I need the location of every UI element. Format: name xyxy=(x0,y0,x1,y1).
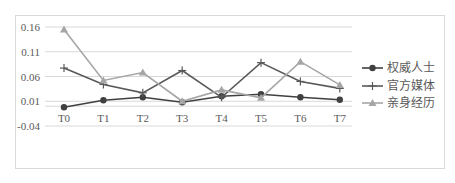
legend-label: 官方媒体 xyxy=(387,78,435,93)
legend-item: 官方媒体 xyxy=(362,78,435,93)
line-chart: 0.160.110.060.01-0.04 T0T1T2T3T4T5T6T7 权… xyxy=(0,0,455,183)
legend-label: 亲身经历 xyxy=(387,95,435,110)
y-tick-label: 0.01 xyxy=(21,95,40,107)
y-tick-label: 0.06 xyxy=(21,71,41,83)
x-tick-label: T0 xyxy=(58,112,71,124)
triangle-marker-icon xyxy=(218,86,226,93)
x-tick-label: T1 xyxy=(97,112,109,124)
x-tick-label: T6 xyxy=(294,112,307,124)
x-tick-label: T3 xyxy=(176,112,189,124)
circle-marker-icon xyxy=(61,104,67,110)
circle-marker-icon xyxy=(369,65,375,71)
y-axis-ticks: 0.160.110.060.01-0.04 xyxy=(17,21,40,132)
series-lines xyxy=(60,25,344,110)
legend-item: 权威人士 xyxy=(362,61,435,75)
x-axis-ticks: T0T1T2T3T4T5T6T7 xyxy=(58,112,347,124)
x-tick-label: T7 xyxy=(334,112,347,124)
triangle-marker-icon xyxy=(296,58,304,65)
legend-label: 权威人士 xyxy=(387,61,435,75)
y-tick-label: 0.16 xyxy=(21,21,41,33)
x-tick-label: T4 xyxy=(215,112,228,124)
y-tick-label: -0.04 xyxy=(17,120,40,132)
circle-marker-icon xyxy=(100,97,106,103)
triangle-marker-icon xyxy=(139,69,147,76)
x-tick-label: T2 xyxy=(137,112,149,124)
y-tick-label: 0.11 xyxy=(21,46,40,58)
circle-marker-icon xyxy=(297,94,303,100)
x-tick-label: T5 xyxy=(255,112,268,124)
series-line xyxy=(64,29,340,101)
legend: 权威人士官方媒体亲身经历 xyxy=(362,61,435,110)
circle-marker-icon xyxy=(337,97,343,103)
triangle-marker-icon xyxy=(336,81,344,88)
series-3 xyxy=(60,25,344,104)
legend-item: 亲身经历 xyxy=(362,95,435,110)
